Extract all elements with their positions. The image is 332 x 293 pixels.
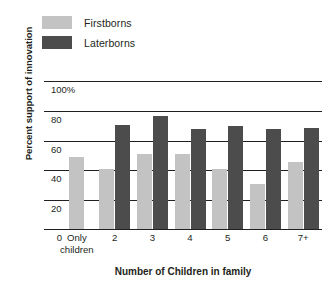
bar xyxy=(250,184,265,229)
x-tick-label: 6 xyxy=(247,232,285,262)
bar-group xyxy=(247,66,285,229)
legend-swatch-laterborns xyxy=(42,36,72,49)
plot-area: 100%80604020 xyxy=(44,66,322,230)
legend-label-laterborns: Laterborns xyxy=(84,37,135,49)
bar-group xyxy=(58,66,96,229)
x-tick-label: 4 xyxy=(171,232,209,262)
bar xyxy=(304,128,319,229)
bar xyxy=(115,125,130,229)
bar-groups xyxy=(44,66,322,229)
bar xyxy=(288,162,303,229)
x-tick-label: Onlychildren xyxy=(58,232,96,262)
bar xyxy=(212,169,227,229)
legend-swatch-firstborns xyxy=(42,16,72,29)
x-tick-label: 7+ xyxy=(284,232,322,262)
bar-group xyxy=(171,66,209,229)
bar xyxy=(69,157,84,229)
x-tick-label: 5 xyxy=(209,232,247,262)
bar-group xyxy=(209,66,247,229)
bar-group xyxy=(284,66,322,229)
legend-item-laterborns: Laterborns xyxy=(42,34,222,51)
bar-group xyxy=(96,66,134,229)
y-axis-title: Percent support of innovation xyxy=(23,4,34,184)
legend-item-firstborns: Firstborns xyxy=(42,14,222,31)
bar xyxy=(228,126,243,229)
chart-legend: Firstborns Laterborns xyxy=(42,14,222,54)
legend-label-firstborns: Firstborns xyxy=(84,17,132,29)
bar xyxy=(153,116,168,229)
x-tick-label: 2 xyxy=(96,232,134,262)
x-tick-label: 3 xyxy=(133,232,171,262)
bar-group xyxy=(133,66,171,229)
x-axis-title: Number of Children in family xyxy=(44,266,322,277)
bar xyxy=(175,154,190,229)
x-axis-tick-labels: Onlychildren234567+ xyxy=(44,232,322,262)
x-axis-line xyxy=(44,229,322,230)
bar xyxy=(137,154,152,229)
bar xyxy=(99,169,114,229)
bar xyxy=(266,129,281,229)
bar xyxy=(191,129,206,229)
